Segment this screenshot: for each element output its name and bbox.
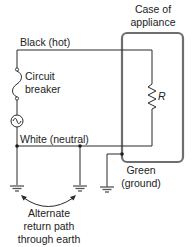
ac-source-icon <box>11 115 23 127</box>
alt-path-label-line2: return path <box>24 220 75 232</box>
green-label-line1: Green <box>126 164 155 176</box>
ground-icon <box>100 187 114 192</box>
white-wire-label: White (neutral) <box>20 133 89 145</box>
green-ground-wire <box>107 154 122 187</box>
circuit-breaker-icon <box>13 68 22 100</box>
grounding-circuit-diagram: Case of appliance Black (hot) Circuit br… <box>0 0 192 247</box>
junction-dot-left <box>15 144 19 148</box>
resistor-icon <box>148 84 156 109</box>
case-label-line2: appliance <box>131 16 176 28</box>
ground-icon <box>10 186 24 191</box>
case-label-line1: Case of <box>135 3 171 15</box>
ground-icon <box>73 186 87 191</box>
alt-path-label-line1: Alternate <box>28 207 70 219</box>
breaker-label-line1: Circuit <box>25 70 55 82</box>
alt-path-label-line3: through earth <box>18 233 81 245</box>
green-label-line2: (ground) <box>121 177 161 189</box>
double-arrow-icon <box>21 195 76 207</box>
black-wire-label: Black (hot) <box>20 36 70 48</box>
breaker-label-line2: breaker <box>25 83 61 95</box>
resistor-label: R <box>158 90 166 102</box>
